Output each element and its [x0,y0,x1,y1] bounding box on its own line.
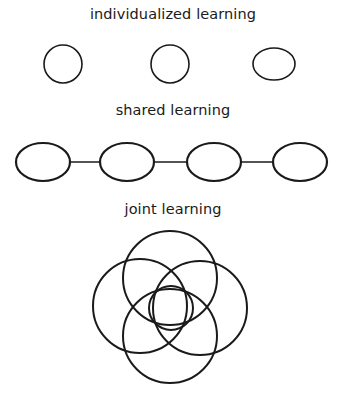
joint-learner-circle [123,289,217,383]
individual-learner-circle [253,48,295,80]
shared-learner-ellipse [273,143,327,181]
joint-learner-circle [153,261,247,355]
learning-diagram [0,0,346,404]
shared-learning-group [16,143,327,181]
shared-learner-ellipse [187,143,241,181]
shared-learner-ellipse [100,143,154,181]
joint-learning-group [93,231,247,383]
individual-learner-circle [151,45,189,83]
joint-learner-circle [123,231,217,325]
shared-learner-ellipse [16,143,70,181]
joint-learner-circle [93,259,187,353]
individualized-learning-group [44,45,295,83]
individual-learner-circle [44,45,82,83]
